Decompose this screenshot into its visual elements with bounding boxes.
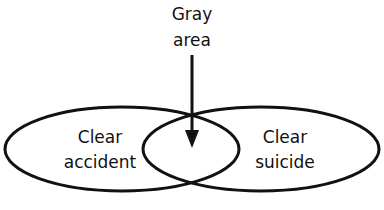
gray-label-line1: Gray	[172, 4, 213, 24]
left-set-label-line2: accident	[64, 152, 137, 172]
right-set-label-line1: Clear	[263, 127, 307, 147]
right-ellipse-clear-suicide	[143, 107, 379, 191]
venn-diagram: Gray area Clear accident Clear suicide	[0, 0, 384, 210]
right-set-label-line2: suicide	[255, 152, 315, 172]
gray-label-line2: area	[173, 30, 211, 50]
left-set-label-line1: Clear	[78, 127, 122, 147]
left-ellipse-clear-accident	[5, 107, 239, 191]
down-arrow-icon	[185, 55, 199, 148]
